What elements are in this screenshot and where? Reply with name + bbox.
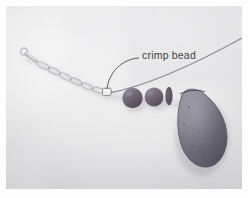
photograph: crimp bead [6, 6, 242, 189]
figure-page: crimp bead [0, 0, 248, 198]
photo-vignette [6, 6, 242, 189]
crimp-bead-label: crimp bead [142, 49, 196, 61]
